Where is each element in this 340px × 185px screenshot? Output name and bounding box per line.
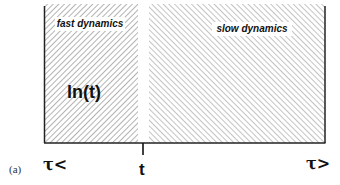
tau-less-label: τ< — [43, 155, 67, 174]
tau-greater-label: τ> — [306, 154, 330, 173]
t-label: t — [139, 160, 145, 180]
ln-t-label: ln(t) — [67, 82, 101, 103]
panel-label: (a) — [9, 163, 21, 175]
slow-dynamics-label: slow dynamics — [212, 22, 292, 36]
fast-dynamics-label: fast dynamics — [55, 17, 125, 31]
